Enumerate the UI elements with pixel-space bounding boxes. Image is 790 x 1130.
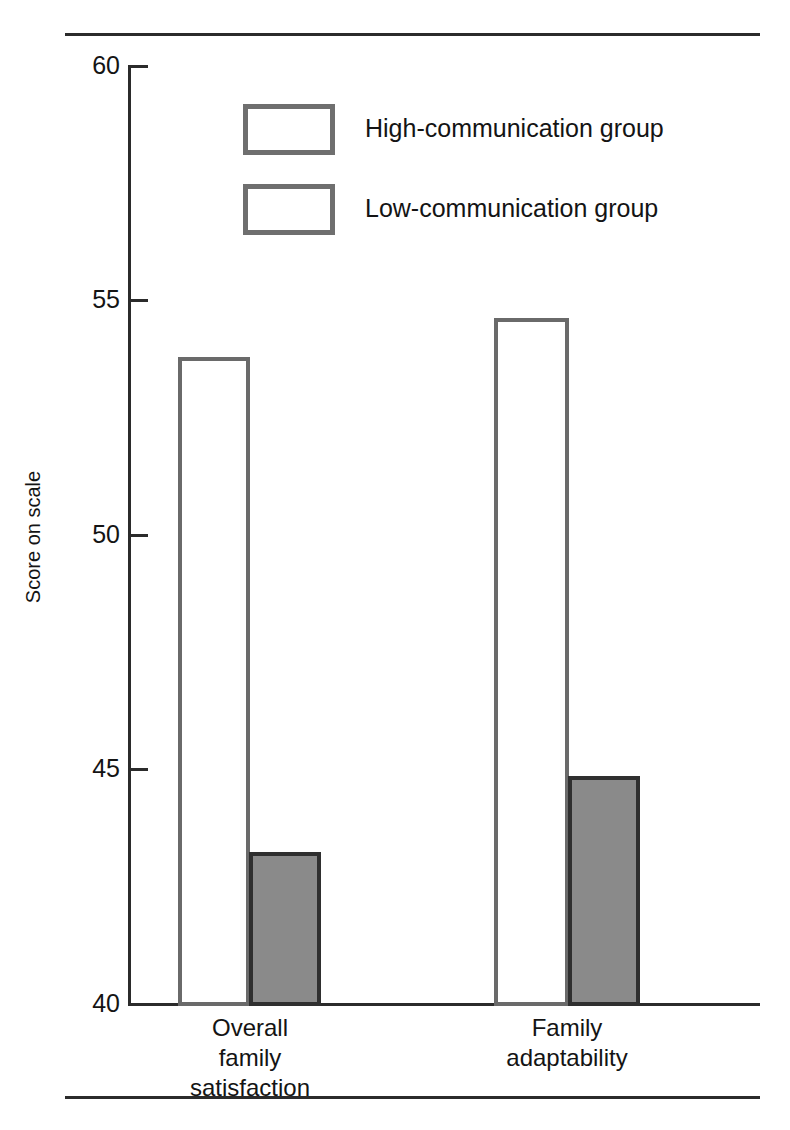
legend-label: High-communication group xyxy=(365,112,664,144)
y-tick-label-40: 40 xyxy=(68,991,120,1016)
bar-high-communication-family-adaptability xyxy=(494,318,569,1006)
x-category-label-line: satisfaction xyxy=(150,1073,350,1103)
legend-swatch-filled xyxy=(243,184,335,235)
y-tick-label-50-wrap: 50 xyxy=(58,522,120,548)
x-category-label-line: Family xyxy=(467,1013,667,1043)
y-tick-label-55: 55 xyxy=(68,287,120,312)
y-tick-mark-50 xyxy=(131,534,148,537)
bar-low-communication-overall-family-satisfaction xyxy=(249,852,321,1006)
bar-high-communication-overall-family-satisfaction xyxy=(178,357,250,1006)
plot-area: 60 55 50 45 40 Score on scale Overall fa… xyxy=(0,0,790,1130)
x-category-label-line: family xyxy=(150,1043,350,1073)
y-tick-mark-55 xyxy=(131,299,148,302)
y-tick-label-45: 45 xyxy=(68,756,120,781)
bar-low-communication-family-adaptability xyxy=(568,776,640,1006)
x-category-label-family-adaptability: Family adaptability xyxy=(467,1013,667,1073)
y-tick-label-60: 60 xyxy=(68,53,120,78)
y-tick-label-50: 50 xyxy=(68,522,120,547)
y-tick-label-40-wrap: 40 xyxy=(58,991,120,1017)
y-axis-title: Score on scale xyxy=(23,442,43,632)
y-tick-mark-45 xyxy=(131,768,148,771)
x-category-label-line: adaptability xyxy=(467,1043,667,1073)
legend-label: Low-communication group xyxy=(365,192,658,224)
x-category-label-overall-family-satisfaction: Overall family satisfaction xyxy=(150,1013,350,1103)
y-tick-label-60-wrap: 60 xyxy=(58,53,120,79)
bar-chart-figure: 60 55 50 45 40 Score on scale Overall fa… xyxy=(0,0,790,1130)
legend-swatch-open xyxy=(243,104,335,155)
x-category-label-line: Overall xyxy=(150,1013,350,1043)
y-tick-label-55-wrap: 55 xyxy=(58,287,120,313)
y-tick-label-45-wrap: 45 xyxy=(58,756,120,782)
y-tick-mark-60 xyxy=(131,65,148,68)
